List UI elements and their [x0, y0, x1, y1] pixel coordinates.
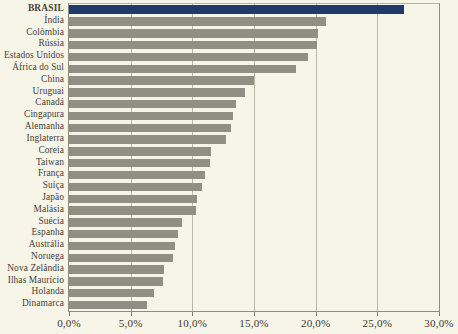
- bar-row[interactable]: [69, 51, 439, 63]
- bar-row[interactable]: [69, 63, 439, 75]
- bar-chart: BRASILÍndiaColômbiaRússiaEstados UnidosÁ…: [0, 0, 458, 334]
- category-label: Ilhas Maurício: [8, 275, 64, 287]
- category-label: Cingapura: [24, 109, 64, 121]
- category-axis-labels: BRASILÍndiaColômbiaRússiaEstados UnidosÁ…: [0, 3, 66, 312]
- category-label: Alemanha: [25, 121, 64, 133]
- bar-row[interactable]: [69, 87, 439, 99]
- bar[interactable]: [69, 254, 173, 262]
- x-tick-label: 5,0%: [119, 317, 143, 329]
- category-label: Rússia: [38, 38, 64, 50]
- bar-row[interactable]: [69, 158, 439, 170]
- bar-row[interactable]: [69, 98, 439, 110]
- bar[interactable]: [69, 230, 178, 238]
- bar-row[interactable]: [69, 240, 439, 252]
- x-tick-mark: [192, 312, 193, 316]
- bar[interactable]: [69, 53, 308, 61]
- bar-row[interactable]: [69, 28, 439, 40]
- bar[interactable]: [69, 301, 147, 309]
- category-label: BRASIL: [28, 3, 64, 15]
- x-tick-mark: [439, 312, 440, 316]
- category-label: Austrália: [29, 239, 64, 251]
- bar-row[interactable]: [69, 299, 439, 311]
- bar[interactable]: [69, 65, 296, 73]
- bar[interactable]: [69, 218, 182, 226]
- bar[interactable]: [69, 277, 163, 285]
- bar-row[interactable]: [69, 217, 439, 229]
- category-label: Estados Unidos: [4, 50, 64, 62]
- bar-row[interactable]: [69, 146, 439, 158]
- bar[interactable]: [69, 112, 233, 120]
- category-label: Nova Zelândia: [7, 263, 64, 275]
- bar[interactable]: [69, 171, 205, 179]
- category-label: França: [38, 168, 64, 180]
- category-label: Suíça: [43, 180, 64, 192]
- bar-row[interactable]: [69, 110, 439, 122]
- bar-row[interactable]: [69, 228, 439, 240]
- bar[interactable]: [69, 206, 196, 214]
- category-label: Canadá: [35, 97, 64, 109]
- bar-row[interactable]: [69, 181, 439, 193]
- bar[interactable]: [69, 100, 236, 108]
- category-label: Colômbia: [26, 27, 64, 39]
- bar-row[interactable]: [69, 193, 439, 205]
- x-tick-label: 10,0%: [178, 317, 207, 329]
- bar[interactable]: [69, 183, 202, 191]
- bar[interactable]: [69, 265, 164, 273]
- bar-row[interactable]: [69, 169, 439, 181]
- x-axis: 0,0%5,0%10,0%15,0%20,0%25,0%30,0%: [68, 312, 440, 334]
- x-tick-mark: [377, 312, 378, 316]
- category-label: Malásia: [34, 204, 64, 216]
- category-label: Suécia: [38, 216, 64, 228]
- bar[interactable]: [69, 76, 254, 84]
- x-tick-label: 15,0%: [239, 317, 268, 329]
- bar-row[interactable]: [69, 134, 439, 146]
- bar-series: [69, 4, 439, 311]
- bar[interactable]: [69, 289, 154, 297]
- bar[interactable]: [69, 41, 317, 49]
- category-label: Índia: [44, 15, 64, 27]
- plot-area: [68, 3, 440, 312]
- x-tick-mark: [131, 312, 132, 316]
- x-tick-label: 30,0%: [424, 317, 453, 329]
- bar[interactable]: [69, 29, 318, 37]
- bar-row[interactable]: [69, 252, 439, 264]
- bar[interactable]: [69, 147, 211, 155]
- category-label: Noruega: [31, 251, 64, 263]
- bar[interactable]: [69, 159, 210, 167]
- category-label: Japão: [42, 192, 64, 204]
- x-tick-label: 0,0%: [57, 317, 81, 329]
- bar-row[interactable]: [69, 39, 439, 51]
- bar-row[interactable]: [69, 276, 439, 288]
- bar[interactable]: [69, 195, 197, 203]
- category-label: Uruguai: [33, 86, 64, 98]
- bar[interactable]: [69, 124, 231, 132]
- bar-row[interactable]: [69, 75, 439, 87]
- x-tick-mark: [69, 312, 70, 316]
- x-tick-label: 25,0%: [363, 317, 392, 329]
- bar[interactable]: [69, 242, 175, 250]
- category-label: Holanda: [32, 286, 64, 298]
- bar-row[interactable]: [69, 287, 439, 299]
- category-label: China: [41, 74, 64, 86]
- category-label: África do Sul: [12, 62, 64, 74]
- category-label: Coreia: [38, 145, 64, 157]
- category-label: Dinamarca: [22, 298, 64, 310]
- bar-row[interactable]: [69, 205, 439, 217]
- bar-highlight[interactable]: [69, 5, 404, 14]
- x-tick-label: 20,0%: [301, 317, 330, 329]
- x-tick-mark: [316, 312, 317, 316]
- category-label: Taiwan: [36, 157, 64, 169]
- bar[interactable]: [69, 17, 326, 25]
- bar-row[interactable]: [69, 16, 439, 28]
- bar[interactable]: [69, 135, 226, 143]
- category-label: Espanha: [32, 227, 64, 239]
- bar-row[interactable]: [69, 122, 439, 134]
- bar-row[interactable]: [69, 4, 439, 16]
- x-tick-mark: [254, 312, 255, 316]
- category-label: Inglaterra: [27, 133, 64, 145]
- bar-row[interactable]: [69, 264, 439, 276]
- bar[interactable]: [69, 88, 245, 96]
